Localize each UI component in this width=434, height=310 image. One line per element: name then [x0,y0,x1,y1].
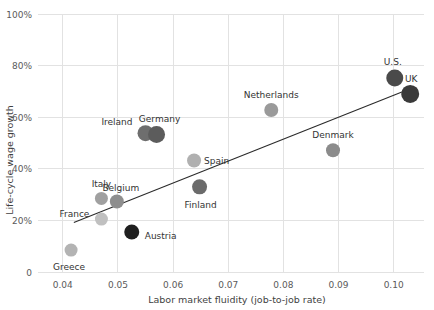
data-point-label: Ireland [101,117,132,127]
data-point-label: Greece [53,262,85,272]
data-points-group: GreeceFranceItalyBelgiumAustriaIrelandGe… [53,57,419,272]
gridlines-group [38,14,424,272]
data-point-marker[interactable] [386,69,403,86]
data-point-marker[interactable] [124,225,139,240]
y-axis-title: Life-cycle wage growth [4,105,15,215]
data-point-label: Belgium [102,183,139,193]
x-tick-label: 0.05 [108,280,128,290]
data-point-label: Austria [145,231,177,241]
data-point-label: UK [405,74,419,84]
y-tick-label: 60% [12,113,32,123]
y-tick-label: 40% [12,164,32,174]
x-tick-label: 0.08 [273,280,293,290]
data-point-marker[interactable] [192,179,207,194]
data-point-label: Denmark [312,130,354,140]
data-point-marker[interactable] [326,143,340,157]
data-point-label: Netherlands [244,90,299,100]
chart-canvas: GreeceFranceItalyBelgiumAustriaIrelandGe… [0,0,434,310]
data-point-marker[interactable] [148,126,165,143]
x-tick-label: 0.07 [218,280,238,290]
data-point-marker[interactable] [110,195,124,209]
data-point-label: Finland [184,200,216,210]
data-point-marker[interactable] [95,192,108,205]
data-point-label: France [59,209,89,219]
x-tick-label: 0.10 [384,280,404,290]
y-tick-label: 20% [12,216,32,226]
y-tick-label: 0 [26,268,32,278]
x-tick-label: 0.04 [53,280,73,290]
data-point-marker[interactable] [65,244,78,257]
data-point-marker[interactable] [95,213,108,226]
x-tick-label: 0.06 [163,280,183,290]
trend-line [74,88,411,222]
data-point-label: Germany [139,114,181,124]
data-point-marker[interactable] [401,85,419,103]
x-tick-label: 0.09 [329,280,349,290]
data-point-label: Spain [204,156,229,166]
scatter-chart: GreeceFranceItalyBelgiumAustriaIrelandGe… [0,0,434,310]
data-point-marker[interactable] [264,103,278,117]
x-axis-title: Labor market fluidity (job-to-job rate) [148,294,326,305]
trendline-group [74,88,411,222]
data-point-marker[interactable] [187,154,201,168]
y-tick-label: 100% [6,10,32,20]
y-tick-label: 80% [12,61,32,71]
data-point-label: U.S. [384,57,402,67]
